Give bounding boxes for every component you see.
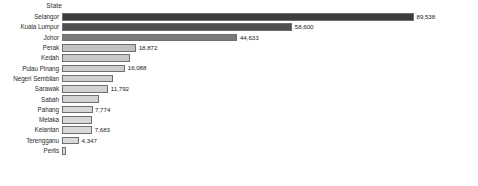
bar-track xyxy=(62,74,478,84)
bar-value-label: 44,633 xyxy=(240,33,259,43)
category-label: Negeri Sembilan xyxy=(0,75,62,83)
bar-row: Sarawak11,792 xyxy=(0,84,478,94)
bar-value-label: 7,774 xyxy=(95,105,110,115)
bar-track: 16,088 xyxy=(62,63,478,73)
bar xyxy=(62,106,93,114)
bar xyxy=(62,44,136,52)
bar-track xyxy=(62,53,478,63)
bar-row: Negeri Sembilan xyxy=(0,74,478,84)
bar-row: Kedah xyxy=(0,53,478,63)
category-label: Selangor xyxy=(0,13,62,21)
bar-row: Kuala Lumpur58,600 xyxy=(0,22,478,32)
bar xyxy=(62,54,130,62)
category-label: Melaka xyxy=(0,116,62,124)
bar-track xyxy=(62,94,478,104)
bar-value-label: 89,538 xyxy=(417,12,436,22)
bar xyxy=(62,126,92,134)
bar xyxy=(62,95,99,103)
bar-rows: Selangor89,538Kuala Lumpur58,600Johor44,… xyxy=(0,12,478,156)
bar-row: Melaka xyxy=(0,115,478,125)
category-label: Perak xyxy=(0,44,62,52)
bar-row: Johor44,633 xyxy=(0,33,478,43)
bar xyxy=(62,147,66,155)
horizontal-bar-chart: State Selangor89,538Kuala Lumpur58,600Jo… xyxy=(0,0,478,186)
category-label: Kedah xyxy=(0,54,62,62)
bar-track: 18,872 xyxy=(62,43,478,53)
bar-track xyxy=(62,146,478,156)
category-label: Perlis xyxy=(0,147,62,155)
bar-track xyxy=(62,115,478,125)
bar-value-label: 11,792 xyxy=(111,84,129,94)
bar-value-label: 16,088 xyxy=(128,63,147,73)
category-label: Sarawak xyxy=(0,85,62,93)
bar-value-label: 7,683 xyxy=(95,125,110,135)
chart-header-row: State xyxy=(0,0,478,11)
bar xyxy=(62,137,79,145)
category-label: Pulau Pinang xyxy=(0,65,62,73)
bar-row: Kelantan7,683 xyxy=(0,125,478,135)
bar-track: 7,774 xyxy=(62,105,478,115)
bar xyxy=(62,65,125,73)
bar-value-label: 18,872 xyxy=(139,43,158,53)
bar-track: 44,633 xyxy=(62,33,478,43)
category-label: Sabah xyxy=(0,96,62,104)
category-label: Johor xyxy=(0,34,62,42)
category-label: Terengganu xyxy=(0,137,62,145)
bar-row: Sabah xyxy=(0,94,478,104)
category-label: Pahang xyxy=(0,106,62,114)
category-label: Kelantan xyxy=(0,126,62,134)
bar xyxy=(62,23,292,31)
category-label: Kuala Lumpur xyxy=(0,23,62,31)
bar-value-label: 58,600 xyxy=(295,22,314,32)
bar-track: 4,347 xyxy=(62,136,478,146)
bar-row: Pahang7,774 xyxy=(0,105,478,115)
category-column-header: State xyxy=(0,0,62,11)
bar xyxy=(62,75,113,83)
bar xyxy=(62,116,92,124)
bar-row: Perlis xyxy=(0,146,478,156)
bar-track: 7,683 xyxy=(62,125,478,135)
bar-row: Terengganu4,347 xyxy=(0,136,478,146)
bar-value-label: 4,347 xyxy=(82,136,97,146)
bar xyxy=(62,85,108,93)
bar xyxy=(62,34,237,42)
bar-track: 58,600 xyxy=(62,22,478,32)
bar-row: Perak18,872 xyxy=(0,43,478,53)
bar-row: Pulau Pinang16,088 xyxy=(0,63,478,73)
bar-row: Selangor89,538 xyxy=(0,12,478,22)
bar-track: 89,538 xyxy=(62,12,478,22)
bar xyxy=(62,13,414,21)
bar-track: 11,792 xyxy=(62,84,478,94)
